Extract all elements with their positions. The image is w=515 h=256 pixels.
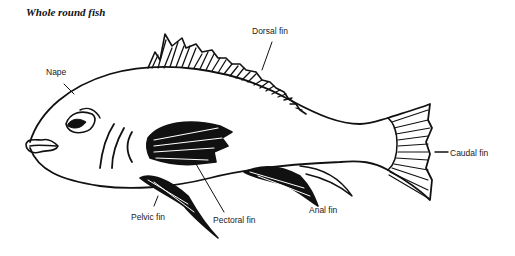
- leader-pelvic: [154, 196, 158, 206]
- label-pectoral-fin: Pectoral fin: [213, 215, 256, 225]
- leader-dorsal: [262, 42, 272, 70]
- label-nape: Nape: [46, 67, 66, 77]
- caudal-fin: [388, 104, 432, 200]
- label-pelvic-fin: Pelvic fin: [131, 212, 165, 222]
- pectoral-fin: [147, 122, 232, 165]
- fish-illustration: [0, 0, 515, 256]
- label-dorsal-fin: Dorsal fin: [252, 26, 288, 36]
- gill-lines: [100, 124, 132, 168]
- anal-fin: [244, 166, 352, 206]
- eye: [66, 108, 100, 132]
- leader-pectoral: [196, 164, 224, 212]
- pelvic-fin: [140, 176, 218, 238]
- label-anal-fin: Anal fin: [309, 205, 337, 215]
- label-caudal-fin: Caudal fin: [450, 148, 488, 158]
